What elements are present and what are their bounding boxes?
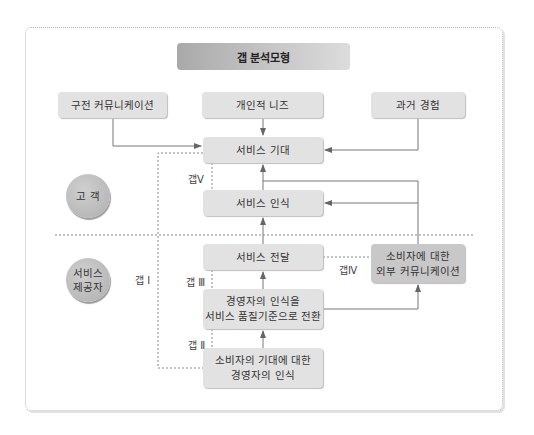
provider-label-line1: 서비스 xyxy=(73,266,103,280)
gap2-label: 갭 Ⅱ xyxy=(188,337,205,352)
personal-needs-box: 개인적 니즈 xyxy=(202,92,323,118)
expected-service-box: 서비스 기대 xyxy=(203,137,323,163)
word-of-mouth-box: 구전 커뮤니케이션 xyxy=(58,92,167,118)
customer-circle: 고 객 xyxy=(66,174,110,218)
perceived-service-label: 서비스 인식 xyxy=(236,196,289,211)
diagram-title: 갭 분석모형 xyxy=(177,43,350,70)
provider-label-line2: 제공자 xyxy=(73,280,103,294)
translation-line1: 경영자의 인식을 xyxy=(226,294,299,309)
customer-label: 고 객 xyxy=(76,189,99,203)
gap1-label: 갭 Ⅰ xyxy=(135,272,150,287)
external-comm-line2: 외부 커뮤니케이션 xyxy=(376,264,459,279)
gap3-label: 갭 Ⅲ xyxy=(186,274,205,289)
quality-spec-translation-box: 경영자의 인식을 서비스 품질기준으로 전환 xyxy=(203,289,323,329)
translation-line2: 서비스 품질기준으로 전환 xyxy=(205,309,322,324)
expected-service-label: 서비스 기대 xyxy=(236,143,289,158)
provider-circle: 서비스 제공자 xyxy=(66,258,110,302)
title-text: 갭 분석모형 xyxy=(237,49,291,65)
gap4-label: 갭Ⅳ xyxy=(339,262,357,277)
word-of-mouth-label: 구전 커뮤니케이션 xyxy=(71,98,154,113)
past-experience-box: 과거 경험 xyxy=(371,92,465,118)
perceived-service-box: 서비스 인식 xyxy=(203,190,323,216)
external-communication-box: 소비자에 대한 외부 커뮤니케이션 xyxy=(371,244,465,283)
past-experience-label: 과거 경험 xyxy=(396,98,439,113)
service-delivery-label: 서비스 전달 xyxy=(236,250,289,265)
mgmt-perception-line2: 경영자의 인식 xyxy=(231,368,294,383)
service-delivery-box: 서비스 전달 xyxy=(203,244,323,270)
management-perception-box: 소비자의 기대에 대한 경영자의 인식 xyxy=(203,348,323,388)
gap5-label: 갭Ⅴ xyxy=(188,171,204,186)
external-comm-line1: 소비자에 대한 xyxy=(386,249,449,264)
personal-needs-label: 개인적 니즈 xyxy=(236,98,289,113)
mgmt-perception-line1: 소비자의 기대에 대한 xyxy=(215,353,312,368)
